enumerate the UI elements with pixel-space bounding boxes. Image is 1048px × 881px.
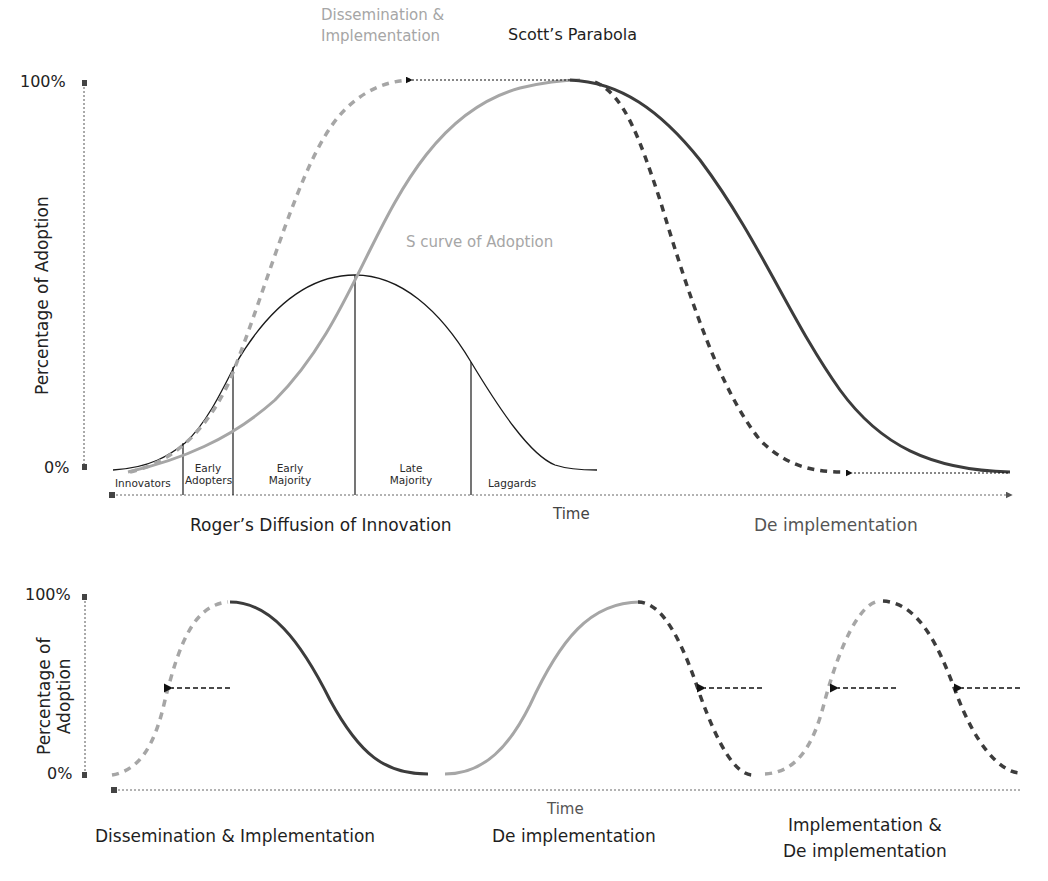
top-chart (82, 80, 1012, 498)
top-y-axis-label: Percentage of Adoption (32, 196, 52, 395)
phase2-label: De implementation (492, 826, 656, 846)
dissemination-label-line1: Dissemination & (321, 6, 444, 24)
top-y-tick-0 (82, 464, 87, 470)
top-y-tick-0-label: 0% (44, 458, 69, 477)
phase1-fall-solid (230, 602, 428, 774)
segment-laggards: Laggards (488, 477, 536, 489)
bottom-y-tick-0-label: 0% (47, 764, 72, 783)
top-x-axis-label: Time (553, 505, 590, 523)
segment-early-majority: Early Majority (255, 462, 325, 486)
rogers-label: Roger’s Diffusion of Innovation (190, 515, 452, 535)
deimplementation-label: De implementation (754, 515, 918, 535)
top-y-tick-100-label: 100% (20, 72, 66, 91)
segment-late-majority: Late Majority (375, 462, 447, 486)
phase3-fall-dashed (883, 601, 1020, 773)
bottom-chart (82, 594, 1020, 793)
phase3-label: Implementation & De implementation (783, 812, 947, 864)
bottom-y-tick-100 (82, 594, 87, 600)
top-x-origin-marker (109, 492, 115, 498)
phase1-label: Dissemination & Implementation (95, 826, 375, 846)
bottom-y-tick-0 (82, 772, 87, 778)
diagram-canvas (0, 0, 1048, 881)
phase2-rise-solid (445, 602, 640, 774)
bottom-y-axis-label: Percentage of Adoption (34, 638, 74, 755)
top-y-tick-100 (82, 80, 87, 86)
deimplementation-dashed-curve (595, 82, 848, 472)
scott-parabola-decline (570, 80, 1010, 472)
s-curve-adoption (128, 80, 580, 472)
bottom-y-tick-100-label: 100% (25, 585, 71, 604)
bottom-x-origin-marker (111, 787, 117, 793)
segment-early-adopters: Early Adopters (185, 462, 231, 486)
bottom-x-axis-label: Time (547, 800, 584, 818)
dissemination-label-line2: Implementation (321, 27, 440, 45)
s-curve-label: S curve of Adoption (406, 233, 553, 251)
segment-innovators: Innovators (115, 477, 171, 489)
chart-title: Scott’s Parabola (508, 25, 637, 44)
